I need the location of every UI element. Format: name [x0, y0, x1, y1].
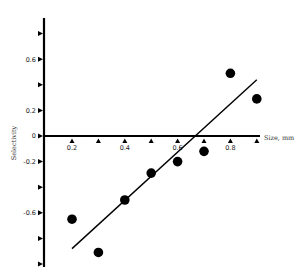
data-point	[67, 214, 77, 224]
y-tick-label: 0.2	[26, 107, 36, 115]
data-point	[199, 147, 209, 157]
x-tick-marker	[254, 139, 259, 144]
x-tick-marker	[70, 139, 75, 144]
data-point	[173, 157, 183, 167]
x-axis-title: Size, mm	[264, 134, 294, 142]
data-point	[226, 68, 236, 78]
y-tick-marker	[38, 210, 43, 215]
x-tick-marker	[175, 139, 180, 144]
scatter-chart: 0.60.20-0.2-0.6 0.20.40.60.8 Selectivity…	[0, 0, 306, 276]
x-tick-marker	[228, 139, 233, 144]
x-axis: 0.20.40.60.8	[44, 136, 260, 152]
y-axis: 0.60.20-0.2-0.6	[23, 18, 44, 267]
y-tick-marker	[38, 159, 43, 164]
y-tick-marker	[38, 185, 43, 190]
data-layer	[67, 68, 261, 257]
data-point	[94, 248, 104, 258]
x-tick-label: 0.4	[120, 144, 130, 152]
y-tick-label: 0.6	[26, 56, 36, 64]
y-tick-marker	[38, 57, 43, 62]
y-tick-marker	[38, 82, 43, 87]
y-tick-marker	[38, 134, 43, 139]
y-tick-marker	[38, 108, 43, 113]
x-tick-marker	[122, 139, 127, 144]
y-tick-label: 0	[32, 132, 36, 140]
x-tick-marker	[149, 139, 154, 144]
y-tick-label: -0.2	[23, 158, 36, 166]
x-tick-label: 0.2	[67, 144, 77, 152]
y-tick-marker	[38, 262, 43, 267]
x-tick-label: 0.8	[225, 144, 235, 152]
y-tick-marker	[38, 236, 43, 241]
x-tick-marker	[96, 139, 101, 144]
data-point	[252, 94, 262, 104]
y-tick-marker	[38, 31, 43, 36]
y-tick-label: -0.6	[23, 209, 36, 217]
regression-line	[72, 80, 257, 249]
x-tick-marker	[202, 139, 207, 144]
y-axis-title: Selectivity	[10, 125, 18, 160]
